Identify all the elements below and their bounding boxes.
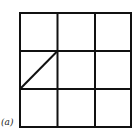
grid-lines: [20, 13, 131, 127]
grid-outer-border: [20, 13, 131, 127]
grid-diagram: [0, 0, 137, 133]
diagonal-line: [20, 51, 58, 89]
figure-label: (a): [1, 117, 13, 127]
